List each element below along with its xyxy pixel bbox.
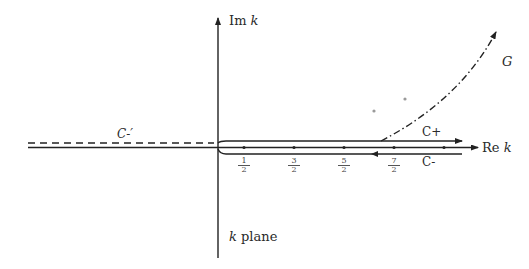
real-axis-variable: k xyxy=(504,140,512,155)
axis-point-nine-halves xyxy=(442,146,445,149)
fraction-denominator: 2 xyxy=(388,166,400,174)
axis-point-three-halves xyxy=(292,146,295,149)
c-minus-prime-label: C-′ xyxy=(117,128,133,140)
plane-variable: k xyxy=(229,229,237,244)
c-minus-label-text: C- xyxy=(422,155,435,169)
fraction-five-halves: 5 2 xyxy=(338,157,350,174)
fraction-seven-halves: 7 2 xyxy=(388,157,400,174)
fraction-denominator: 2 xyxy=(238,166,250,174)
fraction-one-half: 1 2 xyxy=(238,157,250,174)
real-axis-label-text: Re xyxy=(482,140,499,155)
axis-point-seven-halves xyxy=(392,146,395,149)
contour-c-minus-arrow-icon xyxy=(371,151,378,157)
g-label: G xyxy=(502,55,512,68)
contour-c-plus xyxy=(218,141,462,143)
pole-point-2 xyxy=(403,97,406,100)
pole-point-1 xyxy=(372,109,375,112)
c-minus-prime-label-text: C-′ xyxy=(117,127,133,141)
imaginary-axis-variable: k xyxy=(251,13,259,28)
plane-text: plane xyxy=(241,229,277,244)
fraction-three-halves: 3 2 xyxy=(288,157,300,174)
contour-c-minus xyxy=(218,149,462,154)
imaginary-axis-label-text: Im xyxy=(229,13,246,28)
fraction-denominator: 2 xyxy=(288,166,300,174)
plane-label: k plane xyxy=(229,230,277,243)
imaginary-axis-label: Im k xyxy=(229,14,259,27)
c-minus-label: C- xyxy=(422,156,435,168)
c-plus-label: C+ xyxy=(422,126,441,138)
axis-point-half xyxy=(242,146,245,149)
fraction-denominator: 2 xyxy=(338,166,350,174)
c-plus-label-text: C+ xyxy=(422,125,441,139)
real-axis-label: Re k xyxy=(482,141,512,154)
axis-point-five-halves xyxy=(342,146,345,149)
g-label-text: G xyxy=(502,54,512,69)
